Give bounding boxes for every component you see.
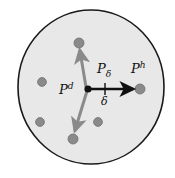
label-ph-base: P	[131, 61, 140, 76]
label-pd: Pd	[59, 83, 74, 96]
scatter-dot-left	[38, 78, 47, 87]
scatter-dot-lower-mid	[94, 118, 103, 127]
label-p-delta-subscript: δ	[106, 69, 111, 79]
label-delta: δ	[101, 96, 108, 107]
target-point-ph	[135, 84, 145, 94]
label-p-delta: Pδ	[97, 62, 111, 75]
candidate-point-lower	[68, 134, 78, 144]
candidate-point-upper	[74, 38, 84, 48]
label-ph-superscript: h	[140, 60, 146, 70]
label-p-delta-base: P	[97, 61, 106, 76]
label-ph: Ph	[131, 62, 146, 75]
label-pd-superscript: d	[68, 81, 74, 91]
scatter-dot-lower-left	[36, 118, 45, 127]
diagram-canvas: Pd Pδ Ph δ	[0, 0, 175, 178]
current-point-pd	[84, 85, 91, 92]
label-pd-base: P	[59, 82, 68, 97]
diagram-vector-layer	[0, 0, 175, 178]
